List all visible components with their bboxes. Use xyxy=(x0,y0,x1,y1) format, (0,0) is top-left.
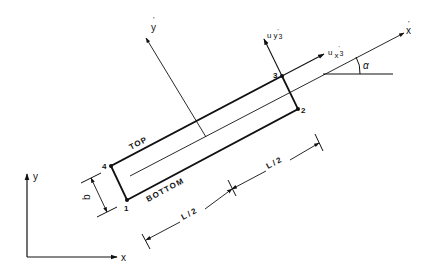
u-x3-index: 3 xyxy=(340,50,344,57)
svg-text:ux'3: ux'3 xyxy=(328,45,344,60)
local-x-axis: x ' xyxy=(130,19,411,176)
node-3-label: 3 xyxy=(273,71,278,80)
global-x-label: x xyxy=(121,252,126,263)
global-y-label: y xyxy=(33,171,38,182)
local-y-axis: y ' xyxy=(146,15,206,137)
u-y3-index: 3 xyxy=(279,33,283,40)
angle-arc xyxy=(356,57,360,74)
u-x3-u: u xyxy=(328,48,332,57)
beam-element-diagram: y x x ' α y ' 4 1 2 3 TOP BOTTOM uy'3 xyxy=(0,0,425,276)
alpha-label: α xyxy=(363,60,369,71)
top-label: TOP xyxy=(128,135,149,152)
u-y3-u: u xyxy=(267,31,271,40)
u-x3-sub: x xyxy=(334,51,338,60)
half-length-label-2: L / 2 xyxy=(265,155,284,171)
svg-text:uy'3: uy'3 xyxy=(267,28,283,40)
node-2-label: 2 xyxy=(301,106,306,115)
dimension-b-label: b xyxy=(81,194,92,200)
beam-element: 4 1 2 3 TOP BOTTOM xyxy=(102,71,306,213)
node-1-label: 1 xyxy=(124,204,129,213)
dimension-b: b xyxy=(81,173,117,217)
node-4-label: 4 xyxy=(102,162,107,171)
node-3-displacements: uy'3 ux'3 xyxy=(264,28,344,76)
half-length-label-1: L / 2 xyxy=(180,206,199,222)
global-axes: y x xyxy=(27,171,126,263)
u-x3-arrow xyxy=(282,54,324,76)
node-2 xyxy=(296,107,300,111)
node-4 xyxy=(109,164,113,168)
node-1 xyxy=(125,198,129,202)
